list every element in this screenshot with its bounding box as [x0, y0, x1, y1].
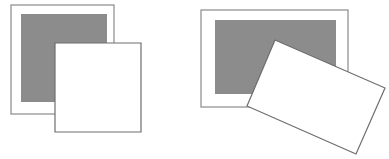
white-card: [55, 43, 141, 132]
figure-left: [11, 5, 141, 132]
diagram-canvas: [0, 0, 389, 159]
figure-right: [201, 10, 385, 154]
